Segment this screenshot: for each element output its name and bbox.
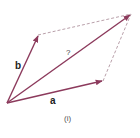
resultant-label: ?	[66, 48, 71, 57]
vector-b-label: b	[15, 60, 21, 71]
vector-b-arrow	[7, 36, 38, 103]
parallelogram-diagram: a b ? (i)	[0, 0, 140, 138]
figure-caption: (i)	[64, 114, 71, 123]
vector-a-label: a	[50, 95, 56, 106]
